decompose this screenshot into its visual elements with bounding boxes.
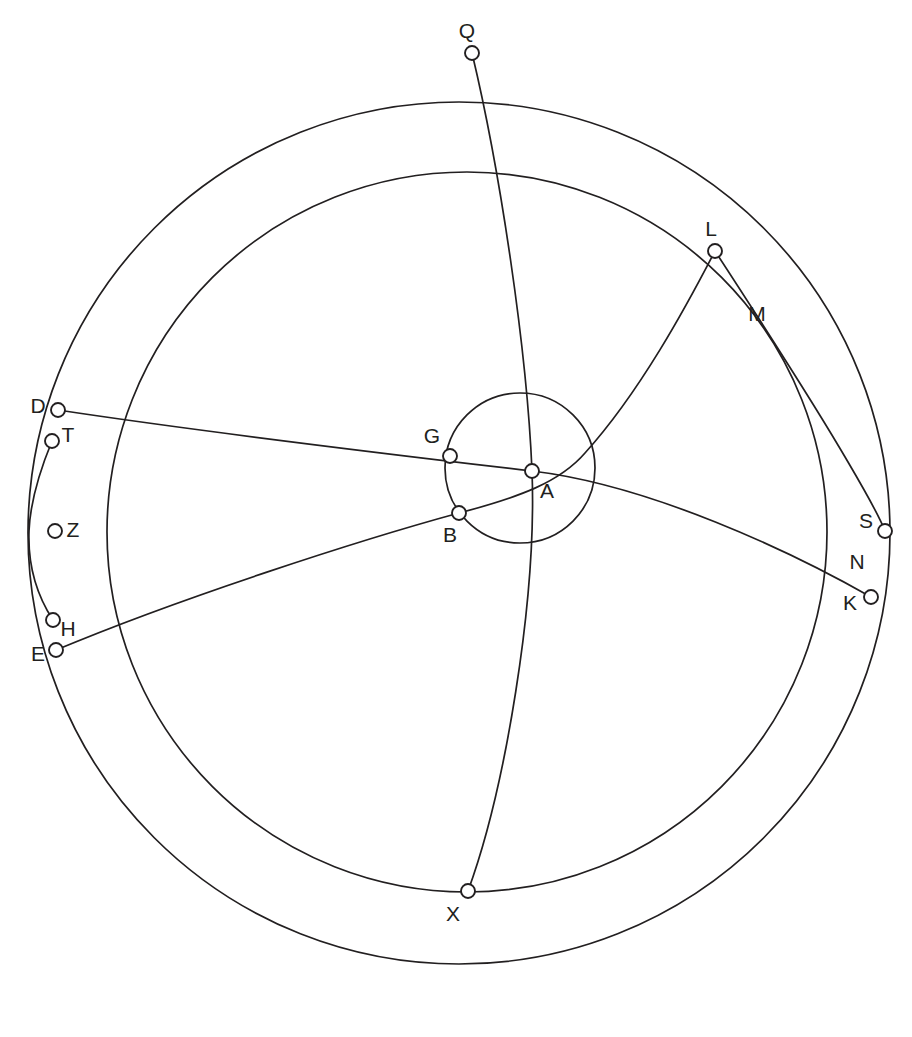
point-label-H: H bbox=[60, 617, 75, 640]
node-marker-K[interactable] bbox=[864, 590, 878, 604]
node-marker-L[interactable] bbox=[708, 244, 722, 258]
node-marker-D[interactable] bbox=[51, 403, 65, 417]
node-marker-T[interactable] bbox=[45, 434, 59, 448]
arc-l-m-s bbox=[715, 251, 885, 531]
point-label-Z: Z bbox=[67, 518, 80, 541]
point-label-T: T bbox=[62, 423, 75, 446]
point-label-X: X bbox=[446, 902, 460, 925]
point-label-B: B bbox=[443, 523, 457, 546]
arc-e-b-l bbox=[56, 251, 715, 650]
sphere-diagram-svg: Q L M D G T A B Z S N K H E X bbox=[0, 0, 912, 1037]
inner-great-circle bbox=[107, 172, 827, 892]
node-marker-E[interactable] bbox=[49, 643, 63, 657]
node-marker-G[interactable] bbox=[443, 449, 457, 463]
point-label-N: N bbox=[849, 550, 864, 573]
point-label-L: L bbox=[705, 217, 717, 240]
point-label-E: E bbox=[31, 642, 45, 665]
node-marker-H[interactable] bbox=[46, 613, 60, 627]
circle-group bbox=[28, 102, 890, 964]
node-marker-group bbox=[45, 46, 892, 898]
point-label-M: M bbox=[748, 302, 766, 325]
diagram-canvas: Q L M D G T A B Z S N K H E X bbox=[0, 0, 912, 1037]
point-label-D: D bbox=[30, 394, 45, 417]
node-marker-Q[interactable] bbox=[465, 46, 479, 60]
point-label-S: S bbox=[859, 509, 873, 532]
point-label-K: K bbox=[843, 591, 857, 614]
point-label-Q: Q bbox=[459, 19, 475, 42]
arc-d-a-k bbox=[58, 410, 871, 597]
node-marker-X[interactable] bbox=[461, 884, 475, 898]
node-marker-B[interactable] bbox=[452, 506, 466, 520]
point-label-A: A bbox=[540, 479, 554, 502]
node-marker-S[interactable] bbox=[878, 524, 892, 538]
arc-q-a-x bbox=[468, 53, 533, 891]
arc-group bbox=[29, 53, 885, 891]
point-label-G: G bbox=[424, 424, 440, 447]
small-central-circle bbox=[445, 393, 595, 543]
point-label-group: Q L M D G T A B Z S N K H E X bbox=[30, 19, 873, 925]
node-marker-Z[interactable] bbox=[48, 524, 62, 538]
node-marker-A[interactable] bbox=[525, 464, 539, 478]
outer-great-circle bbox=[28, 102, 890, 964]
